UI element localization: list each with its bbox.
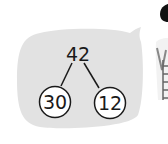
- illustration: 42 30 12: [0, 0, 168, 144]
- part-number-left: 30: [43, 91, 67, 113]
- part-number-right: 12: [98, 92, 122, 114]
- part-circle-left: 30: [40, 87, 71, 118]
- person-figure: [156, 4, 168, 100]
- part-circle-right: 12: [95, 88, 126, 119]
- whole-number: 42: [66, 43, 90, 65]
